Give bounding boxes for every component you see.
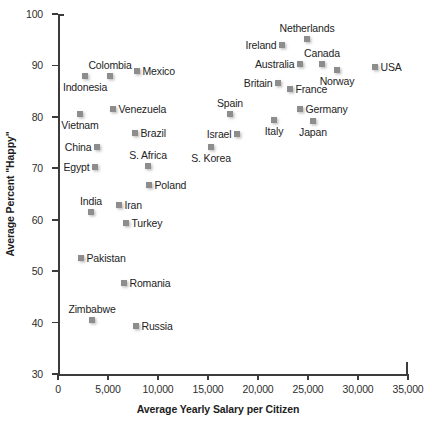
data-point-label: India (80, 195, 102, 207)
y-axis-line (58, 14, 60, 374)
data-point-label: Ireland (245, 39, 276, 51)
data-point-label: Venezuela (119, 103, 167, 115)
x-axis-right-cap (406, 362, 408, 374)
y-axis-title: Average Percent "Happy" (4, 14, 18, 374)
y-tick: 50 (52, 270, 58, 272)
y-tick-label: 50 (32, 265, 43, 277)
data-point[interactable] (134, 68, 140, 74)
data-point[interactable] (88, 209, 94, 215)
data-point[interactable] (279, 42, 285, 48)
data-point[interactable] (110, 106, 116, 112)
y-tick: 100 (52, 13, 58, 15)
data-point-label: Romania (130, 277, 171, 289)
x-axis-line (58, 374, 408, 376)
y-tick: 40 (52, 322, 58, 324)
data-point[interactable] (297, 106, 303, 112)
y-tick: 90 (52, 65, 58, 67)
scatter-plot-figure: 30405060708090100 05,00010,00015,00020,0… (0, 0, 436, 424)
data-point-label: Zimbabwe (68, 303, 115, 315)
y-tick: 70 (52, 167, 58, 169)
data-point[interactable] (234, 131, 240, 137)
data-point-label: Britain (244, 77, 273, 89)
data-point-label: Netherlands (280, 22, 335, 34)
data-point-label: Israel (207, 128, 232, 140)
data-point[interactable] (89, 317, 95, 323)
data-point-label: Poland (155, 179, 187, 191)
data-point-label: Canada (304, 47, 340, 59)
y-tick-label: 70 (32, 162, 43, 174)
data-point[interactable] (334, 67, 340, 73)
data-point-label: USA (381, 61, 402, 73)
data-point-label: S. Korea (191, 152, 231, 164)
data-point[interactable] (133, 323, 139, 329)
x-tick-label: 5,000 (95, 383, 120, 395)
data-point[interactable] (271, 117, 277, 123)
x-tick: 0 (57, 374, 59, 380)
data-point[interactable] (123, 220, 129, 226)
data-point-label: Vietnam (61, 119, 98, 131)
data-point-label: China (65, 141, 92, 153)
data-point-label: Spain (217, 97, 243, 109)
y-tick-label: 60 (32, 214, 43, 226)
x-tick: 25,000 (307, 374, 309, 380)
data-point[interactable] (275, 80, 281, 86)
data-point-label: Iran (125, 199, 143, 211)
x-tick: 15,000 (207, 374, 209, 380)
x-tick-label: 15,000 (193, 383, 224, 395)
y-tick: 80 (52, 116, 58, 118)
y-tick-label: 100 (26, 8, 43, 20)
data-point-label: Pakistan (87, 252, 126, 264)
x-tick-label: 30,000 (343, 383, 374, 395)
data-point[interactable] (94, 144, 100, 150)
plot-area: 30405060708090100 05,00010,00015,00020,0… (58, 14, 408, 374)
data-point[interactable] (78, 255, 84, 261)
x-tick-label: 35,000 (393, 383, 424, 395)
x-tick: 30,000 (357, 374, 359, 380)
data-point[interactable] (304, 36, 310, 42)
data-point[interactable] (227, 111, 233, 117)
data-point[interactable] (145, 163, 151, 169)
data-point-label: Brazil (141, 127, 166, 139)
x-tick: 35,000 (407, 374, 409, 380)
x-axis-title: Average Yearly Salary per Citizen (0, 403, 436, 415)
data-point[interactable] (132, 130, 138, 136)
y-tick-label: 80 (32, 111, 43, 123)
x-tick-label: 10,000 (143, 383, 174, 395)
data-point[interactable] (208, 144, 214, 150)
data-point-label: Turkey (132, 217, 163, 229)
data-point[interactable] (77, 111, 83, 117)
y-axis-top-cap (58, 14, 64, 16)
y-tick-label: 30 (32, 368, 43, 380)
data-point[interactable] (372, 64, 378, 70)
data-point[interactable] (116, 202, 122, 208)
data-point-label: Egypt (63, 161, 89, 173)
data-point-label: Italy (265, 125, 284, 137)
data-point[interactable] (297, 61, 303, 67)
data-point[interactable] (310, 118, 316, 124)
y-tick-label: 90 (32, 59, 43, 71)
y-tick: 60 (52, 219, 58, 221)
data-point-label: France (296, 83, 328, 95)
x-tick-label: 0 (55, 383, 61, 395)
data-point[interactable] (319, 61, 325, 67)
data-point[interactable] (287, 86, 293, 92)
data-point-label: Indonesia (63, 81, 107, 93)
x-tick-label: 20,000 (243, 383, 274, 395)
y-tick-label: 40 (32, 317, 43, 329)
data-point-label: Australia (255, 58, 295, 70)
data-point-label: S. Africa (129, 149, 167, 161)
x-tick: 10,000 (157, 374, 159, 380)
data-point-label: Germany (306, 103, 348, 115)
data-point[interactable] (82, 73, 88, 79)
data-point[interactable] (92, 164, 98, 170)
data-point[interactable] (107, 73, 113, 79)
x-tick: 20,000 (257, 374, 259, 380)
data-point-label: Mexico (143, 65, 175, 77)
data-point[interactable] (121, 280, 127, 286)
x-tick: 5,000 (107, 374, 109, 380)
data-point-label: Colombia (88, 59, 131, 71)
x-tick-label: 25,000 (293, 383, 324, 395)
data-point-label: Japan (299, 126, 327, 138)
data-point[interactable] (146, 182, 152, 188)
data-point-label: Russia (142, 320, 173, 332)
